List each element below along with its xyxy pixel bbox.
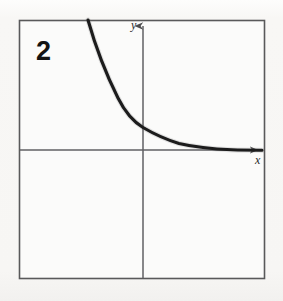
x-axis-label: x	[255, 154, 260, 166]
y-axis-label: y	[131, 19, 136, 31]
problem-number-label: 2	[36, 38, 51, 65]
figure-container: 2 y x	[0, 0, 283, 301]
